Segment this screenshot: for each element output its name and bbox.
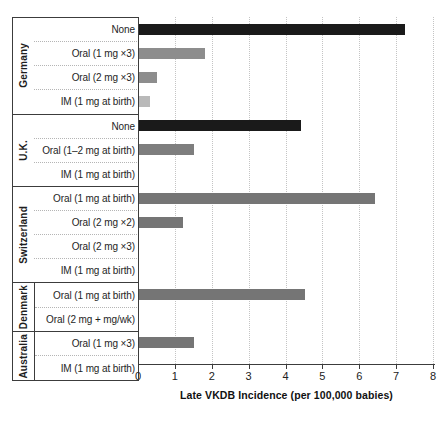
gridline-x-6 [359, 17, 360, 364]
vkdb-incidence-chart: GermanyNoneOral (1 mg ×3)Oral (2 mg ×3)I… [0, 0, 448, 421]
row-label: Oral (1 mg at birth) [35, 283, 139, 306]
x-tick-1 [175, 365, 176, 369]
group-denmark: DenmarkOral (1 mg at birth)Oral (2 mg + … [13, 283, 139, 331]
x-tick-4 [286, 365, 287, 369]
x-tick-3 [249, 365, 250, 369]
row-label: IM (1 mg at birth) [34, 89, 139, 113]
row-label: Oral (1 mg ×3) [35, 332, 139, 356]
group-label: U.K. [18, 140, 29, 161]
category-label-area: GermanyNoneOral (1 mg ×3)Oral (2 mg ×3)I… [12, 17, 139, 381]
bar [139, 144, 194, 155]
row-label: None [34, 115, 139, 138]
group-rows: NoneOral (1–2 mg at birth)IM (1 mg at bi… [34, 115, 139, 186]
gridline-x-1 [175, 17, 176, 364]
group-rows: Oral (1 mg at birth)Oral (2 mg ×2)Oral (… [34, 187, 139, 283]
bar [139, 96, 150, 107]
x-tick-5 [322, 365, 323, 369]
row-label: Oral (1–2 mg at birth) [34, 138, 139, 162]
x-tick-label-3: 3 [238, 370, 260, 382]
gridline-x-8 [433, 17, 434, 364]
gridline-x-2 [212, 17, 213, 364]
x-tick-label-1: 1 [164, 370, 186, 382]
group-label: Denmark [18, 285, 29, 329]
group-uk: U.K.NoneOral (1–2 mg at birth)IM (1 mg a… [13, 115, 139, 187]
group-label: Australia [18, 334, 29, 379]
x-tick-2 [212, 365, 213, 369]
group-label: Germany [18, 43, 29, 88]
x-tick-7 [396, 365, 397, 369]
row-label: None [34, 18, 139, 41]
group-label-cell: Australia [13, 332, 34, 380]
x-tick-0 [138, 365, 139, 369]
group-label-cell: U.K. [13, 115, 34, 186]
plot-area: 012345678 [139, 17, 434, 364]
group-rows: Oral (1 mg at birth)Oral (2 mg + mg/wk) [34, 283, 139, 330]
x-tick-label-8: 8 [422, 370, 444, 382]
group-australia: AustraliaOral (1 mg ×3)IM (1 mg at birth… [13, 332, 139, 380]
bar [139, 120, 301, 131]
bar [139, 72, 157, 83]
row-label: Oral (1 mg ×3) [34, 41, 139, 65]
group-rows: NoneOral (1 mg ×3)Oral (2 mg ×3)IM (1 mg… [34, 18, 139, 114]
bar [139, 217, 183, 228]
bar [139, 337, 194, 348]
x-axis-title: Late VKDB Incidence (per 100,000 babies) [139, 389, 434, 401]
bar [139, 24, 405, 35]
gridline-x-4 [286, 17, 287, 364]
row-label: Oral (2 mg ×2) [34, 210, 139, 234]
x-tick-6 [359, 365, 360, 369]
bar [139, 193, 375, 204]
group-rows: Oral (1 mg ×3)IM (1 mg at birth) [34, 332, 139, 380]
row-label: IM (1 mg at birth) [35, 355, 139, 380]
group-label-cell: Germany [13, 18, 34, 114]
row-label: IM (1 mg at birth) [34, 258, 139, 282]
x-tick-label-2: 2 [201, 370, 223, 382]
x-tick-label-5: 5 [311, 370, 333, 382]
bar [139, 48, 205, 59]
x-tick-label-6: 6 [348, 370, 370, 382]
group-switzerland: SwitzerlandOral (1 mg at birth)Oral (2 m… [13, 187, 139, 284]
group-label-cell: Denmark [13, 283, 34, 330]
gridline-x-5 [322, 17, 323, 364]
gridline-x-3 [249, 17, 250, 364]
x-tick-label-0: 0 [127, 370, 149, 382]
x-tick-8 [433, 365, 434, 369]
row-label: Oral (2 mg + mg/wk) [35, 307, 139, 331]
bar [139, 289, 305, 300]
row-label: Oral (1 mg at birth) [34, 187, 139, 210]
group-germany: GermanyNoneOral (1 mg ×3)Oral (2 mg ×3)I… [13, 18, 139, 115]
row-label: Oral (2 mg ×3) [34, 65, 139, 89]
x-axis-line [139, 364, 435, 365]
group-label-cell: Switzerland [13, 187, 34, 283]
group-label: Switzerland [18, 206, 29, 264]
gridline-x-7 [396, 17, 397, 364]
row-label: Oral (2 mg ×3) [34, 234, 139, 258]
x-tick-label-4: 4 [275, 370, 297, 382]
row-label: IM (1 mg at birth) [34, 162, 139, 186]
x-tick-label-7: 7 [385, 370, 407, 382]
